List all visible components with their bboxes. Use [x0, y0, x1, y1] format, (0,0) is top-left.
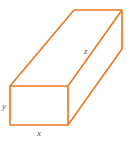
top-left-edge — [10, 10, 74, 86]
label-y: y — [1, 101, 6, 111]
label-z: z — [83, 46, 88, 56]
prism-diagram: y x z — [0, 0, 132, 146]
top-right-edge — [68, 10, 122, 86]
label-x: x — [36, 128, 41, 138]
front-face — [10, 86, 68, 125]
bottom-right-edge — [68, 49, 122, 125]
